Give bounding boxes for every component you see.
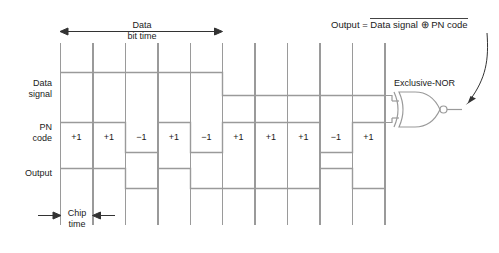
exclusive-nor-gate bbox=[385, 92, 462, 127]
pn-chip-value: −1 bbox=[125, 132, 158, 142]
formula-leader-arrowhead bbox=[466, 96, 477, 105]
row-label-pn-code: PN code bbox=[0, 122, 52, 144]
pn-chip-value: −1 bbox=[320, 132, 353, 142]
data-signal-waveform bbox=[60, 73, 385, 96]
pn-chip-value: +1 bbox=[158, 132, 191, 142]
pn-chip-value: +1 bbox=[287, 132, 320, 142]
pn-chip-value: −1 bbox=[190, 132, 223, 142]
pn-chip-value: +1 bbox=[60, 132, 93, 142]
formula-overlined-expression: Data signal ⊕ PN code bbox=[370, 18, 467, 30]
formula-leader-arrow bbox=[470, 33, 488, 100]
pn-chip-value: +1 bbox=[93, 132, 126, 142]
pn-chip-value: +1 bbox=[222, 132, 255, 142]
pn-chip-value: +1 bbox=[255, 132, 288, 142]
chip-time-label: Chip time bbox=[62, 208, 92, 230]
dsss-timing-diagram: Data signal PN code Output Data bit time… bbox=[0, 0, 499, 253]
exclusive-nor-label: Exclusive-NOR bbox=[394, 78, 455, 89]
row-label-output: Output bbox=[0, 168, 52, 179]
output-formula: Output = Data signal ⊕ PN code bbox=[331, 18, 468, 30]
data-bit-time-label: Data bit time bbox=[106, 20, 178, 42]
row-label-data-signal: Data signal bbox=[0, 78, 52, 100]
pn-chip-value: +1 bbox=[352, 132, 385, 142]
formula-lhs: Output = bbox=[331, 19, 370, 30]
